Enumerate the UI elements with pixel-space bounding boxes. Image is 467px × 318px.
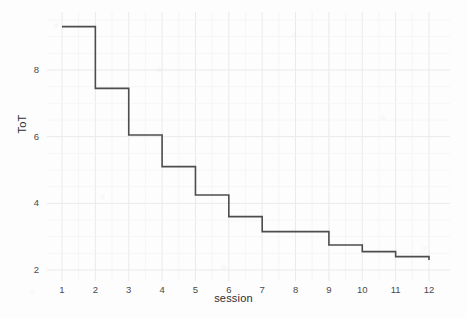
x-tick-label: 11 [384, 284, 408, 295]
x-tick-label: 2 [83, 284, 107, 295]
y-tick-label: 8 [17, 64, 39, 75]
x-tick-label: 4 [150, 284, 174, 295]
x-tick-label: 10 [350, 284, 374, 295]
x-tick-label: 9 [317, 284, 341, 295]
chart-container: ToT session 2468 123456789101112 [0, 0, 467, 318]
step-plot [0, 0, 467, 318]
y-tick-label: 6 [17, 131, 39, 142]
x-tick-label: 5 [183, 284, 207, 295]
x-tick-label: 7 [250, 284, 274, 295]
x-tick-label: 12 [417, 284, 441, 295]
y-tick-label: 4 [17, 197, 39, 208]
x-tick-label: 3 [117, 284, 141, 295]
y-tick-label: 2 [17, 264, 39, 275]
y-axis-title: ToT [16, 94, 28, 154]
x-tick-label: 8 [284, 284, 308, 295]
x-tick-label: 6 [217, 284, 241, 295]
x-tick-label: 1 [50, 284, 74, 295]
